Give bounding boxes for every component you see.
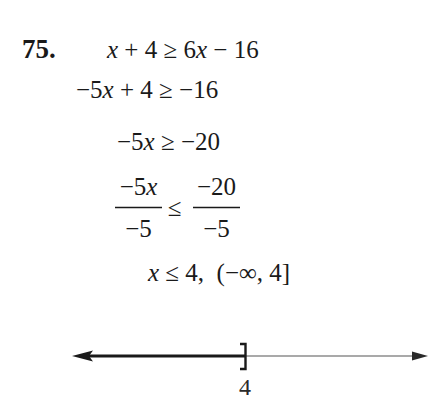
interval-notation: (−∞, 4] [217, 259, 291, 287]
step-4-fraction-equation: −5x −5 ≤ −20 −5 [115, 173, 240, 242]
step-2-coef: −5 [76, 76, 103, 103]
var-x: x [145, 173, 157, 200]
step-1-text-a: + 4 ≥ 6 [118, 36, 196, 63]
step-3-coef: −5 [117, 128, 144, 155]
step-1-equation: x + 4 ≥ 6x − 16 [106, 36, 259, 63]
var-x: x [102, 76, 114, 103]
boundary-label: 4 [239, 374, 251, 400]
step-5-solution: x ≤ 4, (−∞, 4] [147, 259, 290, 287]
var-x: x [195, 36, 207, 63]
problem-number: 75. [22, 34, 56, 64]
var-x: x [147, 259, 159, 286]
step-3-equation: −5x ≥ −20 [117, 128, 220, 155]
var-x: x [143, 128, 155, 155]
right-arrow-icon [412, 352, 428, 361]
relation-symbol: ≤ [168, 194, 182, 221]
step-3-text: ≥ −20 [155, 128, 220, 155]
var-x: x [106, 36, 118, 63]
step-2-text: + 4 ≥ −16 [114, 76, 218, 103]
right-denominator: −5 [203, 215, 230, 242]
number-line: 4 [72, 344, 428, 400]
textbook-solution-page: 75. x + 4 ≥ 6x − 16 −5x + 4 ≥ −16 −5x ≥ … [0, 0, 441, 412]
left-numerator-coef: −5 [120, 173, 147, 200]
solution-canvas: 75. x + 4 ≥ 6x − 16 −5x + 4 ≥ −16 −5x ≥ … [0, 0, 441, 412]
left-numerator: −5x [120, 173, 158, 200]
right-numerator: −20 [197, 173, 236, 200]
step-1-text-b: − 16 [207, 36, 259, 63]
left-denominator: −5 [125, 215, 152, 242]
step-2-equation: −5x + 4 ≥ −16 [76, 76, 218, 103]
solution-inequality-text: ≤ 4, [159, 259, 216, 286]
